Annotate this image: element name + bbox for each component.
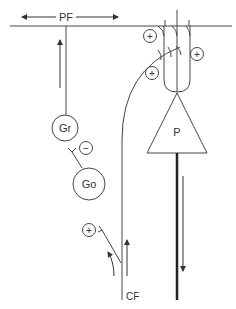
- cf-synapse-hooks: [158, 46, 181, 60]
- cf-golgi-collateral: [98, 226, 121, 263]
- excitatory-sign: +: [194, 49, 200, 60]
- pf-synapse-hooks: [158, 26, 190, 36]
- golgi-label: Go: [82, 178, 97, 190]
- excitatory-sign: +: [149, 68, 155, 79]
- purkinje-label: P: [173, 126, 180, 138]
- granule-label: Gr: [59, 122, 72, 134]
- inhibitory-sign: −: [83, 143, 89, 154]
- cf-label: CF: [126, 291, 139, 302]
- climbing-fiber: [122, 47, 180, 300]
- collateral-arrow: [108, 252, 114, 276]
- excitatory-sign: +: [86, 225, 92, 236]
- excitatory-sign: +: [147, 31, 153, 42]
- cerebellar-circuit-diagram: PF Gr − Go + CF + + + P: [0, 0, 236, 309]
- pf-label: PF: [59, 11, 73, 23]
- purkinje-cell: [147, 93, 207, 153]
